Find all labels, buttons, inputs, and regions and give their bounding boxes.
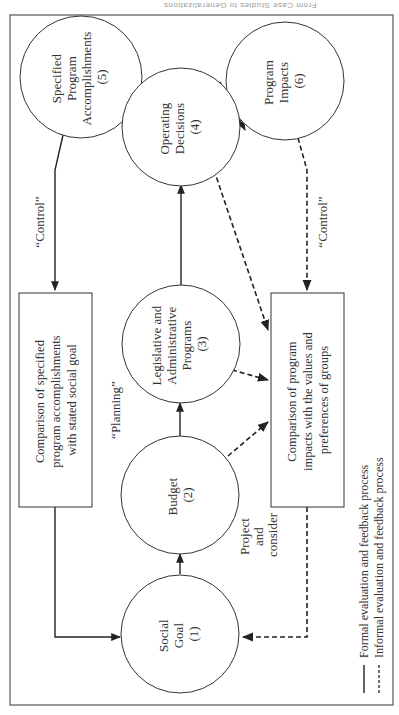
box-formal-comparison: Comparison of specified program accompli… (19, 293, 92, 507)
edge-2-to-informal-box (228, 422, 268, 456)
policy-feedback-diagram: From Case Studies to Generalizations Spe… (0, 0, 399, 715)
node-operating-decisions: Operating Decisions (4) (122, 68, 240, 186)
label-control-informal: “Control” (315, 196, 330, 247)
svg-text:Comparison of specified: Comparison of specified program accompli… (33, 332, 79, 467)
label-project-and-consider: Project and consider (237, 512, 280, 557)
legend: Formal evaluation and feedback process I… (357, 457, 386, 693)
label-control-formal: “Control” (32, 196, 47, 247)
node-program-impacts: Program Impacts (6) (226, 22, 344, 140)
node-social-goal: Social Goal (1) (121, 575, 239, 693)
edge-5-to-formal-box (55, 135, 63, 290)
node-budget: Budget (2) (121, 436, 239, 554)
svg-text:Comparison of program im: Comparison of program impacts with the v… (285, 329, 331, 471)
label-planning: “Planning” (108, 381, 123, 439)
running-head: From Case Studies to Generalizations (163, 1, 316, 10)
edge-3-to-informal-box (232, 370, 268, 380)
node-legislative-administrative-programs: Legislative and Administrative Programs … (122, 285, 240, 403)
legend-formal: Formal evaluation and feedback process (357, 464, 371, 658)
box-informal-comparison: Comparison of program impacts with the v… (271, 293, 344, 507)
edge-formal-box-to-1 (55, 507, 120, 637)
legend-informal: Informal evaluation and feedback process (372, 457, 386, 658)
edge-6-to-informal-box (298, 138, 307, 290)
